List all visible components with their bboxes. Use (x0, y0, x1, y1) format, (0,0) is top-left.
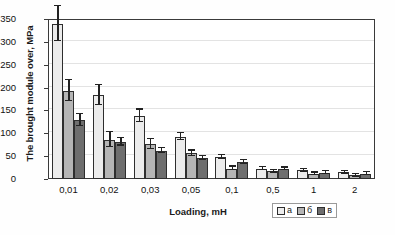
bar-group (215, 19, 248, 179)
bar-б-0,01[interactable] (63, 91, 74, 179)
y-tick-label: 350 (0, 14, 16, 24)
error-bar-cap (199, 159, 206, 160)
y-tick-label: 100 (0, 128, 16, 138)
error-bar-cap (117, 144, 124, 145)
bar-в-0,05[interactable] (197, 158, 208, 179)
error-bar (109, 132, 110, 147)
y-tick-label: 300 (0, 37, 16, 47)
error-bar-cap (54, 5, 61, 6)
y-tick-mark (44, 179, 48, 180)
legend: абв (272, 203, 337, 218)
error-bar-cap (322, 170, 329, 171)
error-bar-cap (218, 154, 225, 155)
error-bar-cap (311, 171, 318, 172)
error-bar-cap (147, 148, 154, 149)
error-bar-cap (106, 131, 113, 132)
bar-group (52, 19, 85, 179)
bar-в-0,01[interactable] (74, 120, 85, 179)
bar-group (175, 19, 208, 179)
y-tick-label: 0 (0, 174, 16, 184)
bar-а-0,5[interactable] (256, 169, 267, 180)
bar-в-0,5[interactable] (278, 169, 289, 179)
bar-group (338, 19, 371, 179)
error-bar-cap (76, 125, 83, 126)
legend-swatch-icon (317, 207, 325, 215)
error-bar-cap (341, 170, 348, 171)
error-bar-cap (281, 166, 288, 167)
error-bar (57, 6, 58, 41)
error-bar-cap (188, 149, 195, 150)
bar-б-0,05[interactable] (186, 153, 197, 179)
bar-а-0,1[interactable] (215, 157, 226, 179)
error-bar-cap (352, 176, 359, 177)
error-bar-cap (54, 40, 61, 41)
error-bar-cap (188, 155, 195, 156)
error-bar-cap (240, 159, 247, 160)
legend-item-б[interactable]: б (297, 206, 312, 215)
bar-в-0,02[interactable] (115, 142, 126, 179)
legend-swatch-icon (277, 207, 285, 215)
bar-groups (48, 19, 375, 179)
legend-swatch-icon (297, 207, 305, 215)
bar-а-0,01[interactable] (52, 24, 63, 179)
error-bar-cap (65, 100, 72, 101)
bar-б-0,03[interactable] (145, 144, 156, 179)
error-bar-cap (281, 169, 288, 170)
error-bar-cap (95, 104, 102, 105)
error-bar-cap (177, 139, 184, 140)
error-bar-cap (199, 155, 206, 156)
legend-label: а (287, 206, 292, 215)
error-bar-cap (300, 168, 307, 169)
error-bar-cap (136, 108, 143, 109)
error-bar-cap (218, 158, 225, 159)
y-axis-title: The brought module over, MPa (24, 9, 35, 179)
error-bar-cap (270, 169, 277, 170)
error-bar-cap (229, 169, 236, 170)
error-bar-cap (136, 121, 143, 122)
bar-в-0,1[interactable] (237, 162, 248, 179)
y-tick-label: 250 (0, 60, 16, 70)
error-bar-cap (117, 137, 124, 138)
error-bar-cap (76, 113, 83, 114)
legend-label: б (307, 206, 312, 215)
error-bar-cap (65, 79, 72, 80)
error-bar-cap (322, 173, 329, 174)
error-bar-cap (177, 132, 184, 133)
bar-а-0,03[interactable] (134, 116, 145, 179)
error-bar-cap (229, 165, 236, 166)
bar-group (256, 19, 289, 179)
error-bar-cap (363, 171, 370, 172)
bar-а-0,05[interactable] (175, 137, 186, 180)
x-axis-title: Loading, mH (108, 206, 288, 217)
error-bar-cap (363, 174, 370, 175)
error-bar (98, 85, 99, 105)
bar-group (297, 19, 330, 179)
y-tick-label: 150 (0, 105, 16, 115)
legend-label: в (327, 206, 332, 215)
error-bar-cap (158, 152, 165, 153)
error-bar-cap (311, 174, 318, 175)
legend-item-а[interactable]: а (277, 206, 292, 215)
error-bar-cap (95, 84, 102, 85)
y-tick-label: 50 (0, 151, 16, 161)
error-bar-cap (352, 173, 359, 174)
error-bar-cap (106, 146, 113, 147)
error-bar-cap (259, 166, 266, 167)
error-bar-cap (270, 171, 277, 172)
error-bar (68, 80, 69, 101)
legend-item-в[interactable]: в (317, 206, 332, 215)
error-bar-cap (147, 138, 154, 139)
error-bar-cap (341, 172, 348, 173)
x-tick-label: 2 (331, 184, 379, 195)
y-tick-label: 200 (0, 83, 16, 93)
bar-group (93, 19, 126, 179)
error-bar-cap (259, 169, 266, 170)
error-bar-cap (158, 147, 165, 148)
bar-в-0,03[interactable] (156, 151, 167, 179)
error-bar-cap (240, 163, 247, 164)
chart-figure: The brought module over, MPa 05010015020… (0, 0, 395, 235)
bar-а-0,02[interactable] (93, 95, 104, 179)
error-bar-cap (300, 171, 307, 172)
bar-group (134, 19, 167, 179)
